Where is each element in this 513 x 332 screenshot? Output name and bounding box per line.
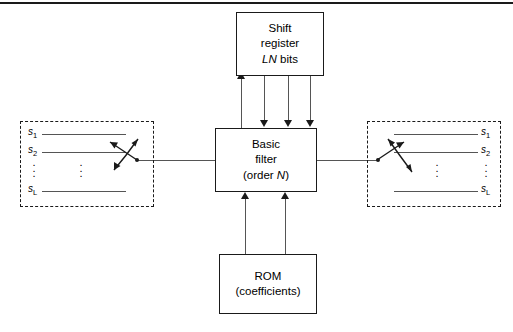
rom-block: ROM (coefficients) <box>219 254 317 314</box>
rom-connector-1-line <box>245 199 246 254</box>
rom-line1: ROM <box>236 269 301 284</box>
input-commutator-switch[interactable] <box>100 126 154 184</box>
shift-register-line2: register <box>261 36 299 51</box>
rom-connector-2-line <box>285 199 286 254</box>
shift-register-line1: Shift <box>261 21 299 36</box>
basic-filter-order-open: (order <box>243 169 277 181</box>
shift-register-line3: LN bits <box>261 52 299 67</box>
shift-register-block: Shift register LN bits <box>236 12 324 76</box>
basic-filter-line2: filter <box>243 152 289 167</box>
sr-connector-3-arrow-down <box>284 120 292 127</box>
basic-filter-line1: Basic <box>243 137 289 152</box>
shift-register-bits-symbol: LN <box>262 53 277 65</box>
rom-line2: (coefficients) <box>236 284 301 299</box>
output-commutator-switch[interactable] <box>374 126 428 184</box>
rom-connector-1-arrow-up <box>241 192 249 199</box>
basic-filter-order-symbol: N <box>277 169 285 181</box>
sr-connector-2-arrow-down <box>260 120 268 127</box>
shift-register-bits-word: bits <box>277 53 298 65</box>
basic-filter-order: (order N) <box>243 168 289 183</box>
figure-top-rule <box>0 2 513 4</box>
sr-connector-4-line <box>310 74 311 122</box>
sr-connector-1-line <box>241 78 242 128</box>
figure-canvas: Shift register LN bits Basic filter (ord… <box>0 0 513 332</box>
sr-connector-3-line <box>288 74 289 122</box>
sr-connector-2-line <box>264 74 265 122</box>
basic-filter-block: Basic filter (order N) <box>215 128 317 192</box>
sr-connector-4-arrow-down <box>306 120 314 127</box>
basic-filter-order-close: ) <box>285 169 289 181</box>
rom-connector-2-arrow-up <box>281 192 289 199</box>
